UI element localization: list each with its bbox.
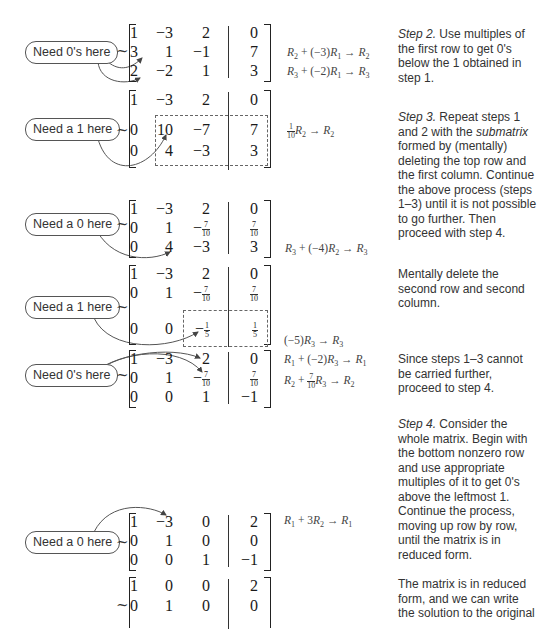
matrix-cell: 7 <box>228 43 258 61</box>
matrix-cell: −3 <box>180 238 210 256</box>
matrix-cell: 2 <box>228 513 258 531</box>
matrix-cell: 3 <box>228 62 258 80</box>
matrix-cell: 4 <box>143 238 173 256</box>
matrix-cell: 3 <box>228 238 258 256</box>
matrix-cell: 0 <box>108 238 138 256</box>
matrix-cell: 0 <box>228 200 258 218</box>
matrix-cell: 1 <box>143 369 173 387</box>
matrix-cell: −1 <box>228 388 258 406</box>
row-operation: R3 + (−2)R1 → R3 <box>287 65 369 80</box>
matrix-cell: −3 <box>143 200 173 218</box>
matrix-cell: 0 <box>108 551 138 569</box>
callout-need-zeros: Need 0's here <box>25 41 118 64</box>
matrix-cell: 1 <box>143 597 173 615</box>
matrix-cell: 1 <box>143 532 173 550</box>
callout-need-zero: Need a 0 here <box>25 213 120 236</box>
matrix-cell: −7 <box>180 121 210 139</box>
note-since-steps: Since steps 1–3 cannot be carried furthe… <box>398 352 538 396</box>
note-mentally-delete: Mentally delete the second row and secon… <box>398 267 538 311</box>
note-step-4: Step 4. Consider the whole matrix. Begin… <box>398 417 538 562</box>
matrix-cell: −3 <box>143 91 173 109</box>
matrix-cell: 0 <box>108 320 138 338</box>
matrix-cell: 1 <box>108 513 138 531</box>
row-operation: R2 + 710R3 → R2 <box>284 373 355 390</box>
matrix-cell: 2 <box>180 265 210 283</box>
matrix-cell: 0 <box>108 121 138 139</box>
matrix-cell: 0 <box>228 265 258 283</box>
matrix-cell: 1 <box>180 551 210 569</box>
matrix-cell: 1 <box>108 577 138 595</box>
row-operation: R2 + (−3)R1 → R2 <box>287 46 369 61</box>
matrix-cell: −1 <box>180 43 210 61</box>
matrix-cell: 0 <box>108 369 138 387</box>
matrix-cell: 10 <box>143 121 173 139</box>
matrix-cell: 0 <box>228 350 258 368</box>
matrix-cell: −3 <box>143 350 173 368</box>
row-operation: R3 + (−4)R2 → R3 <box>285 242 367 257</box>
callout-need-zeros: Need 0's here <box>25 364 118 387</box>
row-operation: 110R2 → R2 <box>287 123 334 140</box>
matrix-cell: −710 <box>180 284 210 303</box>
matrix-cell: 2 <box>180 91 210 109</box>
matrix-cell: 0 <box>228 91 258 109</box>
matrix-cell: 0 <box>143 577 173 595</box>
matrix-cell: 2 <box>180 200 210 218</box>
matrix-cell: −2 <box>143 62 173 80</box>
matrix-cell: −3 <box>143 24 173 42</box>
row-operation: R1 + 3R2 → R1 <box>284 514 352 529</box>
matrix-cell: 1 <box>180 388 210 406</box>
matrix-cell: 1 <box>143 219 173 237</box>
matrix-cell: 0 <box>143 320 173 338</box>
matrix-cell: 3 <box>228 142 258 160</box>
callout-need-one: Need a 1 here <box>25 296 120 319</box>
note-step-3: Step 3. Repeat steps 1 and 2 with the su… <box>398 110 538 241</box>
matrix-cell: 1 <box>108 200 138 218</box>
callout-need-one: Need a 1 here <box>25 118 120 141</box>
matrix-cell: 0 <box>180 532 210 550</box>
matrix-cell: −1 <box>228 551 258 569</box>
matrix-cell: 7 <box>228 121 258 139</box>
matrix-cell: 1 <box>108 265 138 283</box>
matrix-cell: 1 <box>180 62 210 80</box>
matrix-cell: 4 <box>143 142 173 160</box>
matrix-cell: 15 <box>228 320 258 339</box>
matrix-cell: 0 <box>180 513 210 531</box>
matrix-cell: 0 <box>108 219 138 237</box>
matrix-cell: 1 <box>108 91 138 109</box>
matrix-cell: 2 <box>108 62 138 80</box>
matrix-cell: −3 <box>180 142 210 160</box>
matrix-cell: 0 <box>228 532 258 550</box>
note-reduced-form: The matrix is in reduced form, and we ca… <box>398 577 538 621</box>
matrix-cell: 1 <box>143 284 173 302</box>
row-operation: R1 + (−2)R3 → R1 <box>284 353 366 368</box>
matrix-cell: 0 <box>143 551 173 569</box>
matrix-cell: 0 <box>228 597 258 615</box>
matrix-cell: 0 <box>143 388 173 406</box>
matrix-cell: 0 <box>108 532 138 550</box>
matrix-cell: −3 <box>143 265 173 283</box>
matrix-cell: −710 <box>180 369 210 388</box>
matrix-cell: 0 <box>228 24 258 42</box>
matrix-cell: 710 <box>228 219 258 238</box>
matrix-cell: 1 <box>108 24 138 42</box>
matrix-cell: 0 <box>108 388 138 406</box>
matrix-cell: 0 <box>108 284 138 302</box>
note-step-2: Step 2. Use multiples of the first row t… <box>398 27 538 85</box>
matrix-cell: 0 <box>180 577 210 595</box>
matrix-cell: 2 <box>228 577 258 595</box>
matrix-cell: 710 <box>228 284 258 303</box>
matrix-cell: 1 <box>108 350 138 368</box>
row-operation: (−5)R3 → R3 <box>284 334 343 349</box>
matrix-cell: 0 <box>108 597 138 615</box>
matrix-cell: −15 <box>180 320 210 339</box>
matrix-cell: −710 <box>180 219 210 238</box>
matrix-cell: 710 <box>228 369 258 388</box>
matrix-cell: −3 <box>143 513 173 531</box>
matrix-cell: 0 <box>180 597 210 615</box>
matrix-cell: 0 <box>108 142 138 160</box>
matrix-cell: 2 <box>180 350 210 368</box>
callout-need-zero: Need a 0 here <box>25 531 120 554</box>
matrix-cell: 2 <box>180 24 210 42</box>
matrix-cell: 3 <box>108 43 138 61</box>
matrix-cell: 1 <box>143 43 173 61</box>
